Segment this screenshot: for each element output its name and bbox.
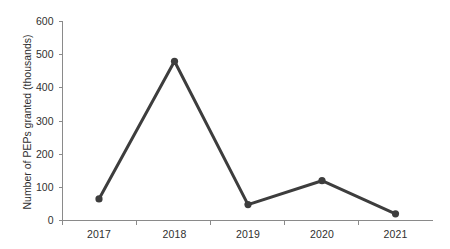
y-tick-label: 100	[36, 181, 54, 193]
data-point	[95, 195, 102, 202]
y-tick-label: 300	[36, 115, 54, 127]
y-tick-label: 500	[36, 48, 54, 60]
y-axis-title: Number of PEPs granted (thousands)	[21, 34, 33, 209]
x-tick-label: 2020	[310, 228, 334, 240]
chart-canvas: Number of PEPs granted (thousands) 01002…	[0, 0, 450, 249]
x-tick-label: 2017	[87, 228, 111, 240]
x-tick-label: 2018	[162, 228, 186, 240]
data-point	[244, 201, 251, 208]
data-point	[392, 210, 399, 217]
chart-background	[0, 0, 450, 249]
y-tick-label: 0	[48, 214, 54, 226]
x-tick-label: 2021	[383, 228, 407, 240]
y-tick-label: 200	[36, 148, 54, 160]
x-tick-label: 2019	[236, 228, 260, 240]
data-point	[318, 177, 325, 184]
y-tick-label: 600	[36, 15, 54, 27]
line-chart: Number of PEPs granted (thousands) 01002…	[0, 0, 450, 249]
y-tick-label: 400	[36, 81, 54, 93]
data-point	[171, 58, 178, 65]
